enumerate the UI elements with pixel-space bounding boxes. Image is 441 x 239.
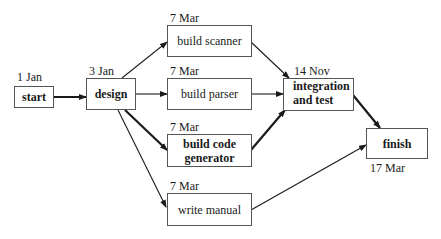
node-build-code-generator-line1: build code bbox=[183, 137, 236, 151]
edge-build-scanner-integration bbox=[251, 42, 289, 78]
build-scanner-date: 7 Mar bbox=[170, 11, 199, 26]
node-build-scanner-label: build scanner bbox=[177, 34, 241, 48]
node-design[interactable]: design bbox=[86, 78, 136, 110]
edge-integration-finish bbox=[353, 95, 380, 128]
node-build-code-generator[interactable]: build code generator bbox=[167, 134, 252, 167]
write-manual-date: 7 Mar bbox=[170, 179, 199, 194]
edge-design-build-code-generator bbox=[125, 110, 167, 150]
build-parser-date: 7 Mar bbox=[170, 64, 199, 79]
edge-write-manual-finish bbox=[251, 145, 366, 210]
edge-design-build-scanner bbox=[122, 42, 167, 78]
node-start[interactable]: start bbox=[14, 86, 54, 108]
node-start-label: start bbox=[22, 90, 46, 104]
node-write-manual[interactable]: write manual bbox=[167, 193, 252, 226]
integration-date: 14 Nov bbox=[294, 64, 330, 79]
edge-design-write-manual bbox=[118, 110, 166, 207]
node-build-parser[interactable]: build parser bbox=[167, 78, 252, 110]
node-build-parser-label: build parser bbox=[181, 87, 238, 101]
node-design-label: design bbox=[95, 87, 128, 101]
node-build-code-generator-line2: generator bbox=[185, 151, 235, 165]
node-integration-and-test[interactable]: integration and test bbox=[283, 78, 354, 111]
finish-date: 17 Mar bbox=[370, 161, 405, 176]
node-finish[interactable]: finish bbox=[366, 128, 428, 159]
node-integration-line1: integration bbox=[293, 79, 350, 93]
node-finish-label: finish bbox=[383, 137, 412, 151]
node-build-scanner[interactable]: build scanner bbox=[167, 25, 252, 57]
node-integration-line2: and test bbox=[293, 93, 333, 107]
design-date: 3 Jan bbox=[89, 64, 114, 79]
start-date: 1 Jan bbox=[17, 70, 42, 85]
build-code-generator-date: 7 Mar bbox=[170, 120, 199, 135]
node-write-manual-label: write manual bbox=[178, 203, 241, 217]
edge-build-code-generator-integration bbox=[251, 110, 285, 150]
